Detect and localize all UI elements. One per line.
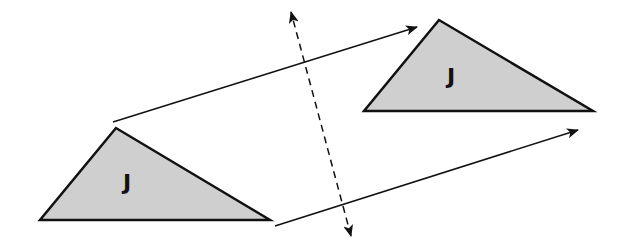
original-triangle: J — [40, 128, 270, 220]
reflection-diagram: J J — [0, 0, 626, 248]
original-triangle-shape — [40, 128, 270, 220]
translation-arrow-bottom — [275, 130, 578, 226]
original-triangle-label: J — [121, 170, 131, 195]
image-triangle: J — [364, 20, 593, 111]
image-triangle-label: J — [445, 64, 455, 89]
image-triangle-shape — [364, 20, 593, 111]
reflection-line — [291, 12, 351, 236]
